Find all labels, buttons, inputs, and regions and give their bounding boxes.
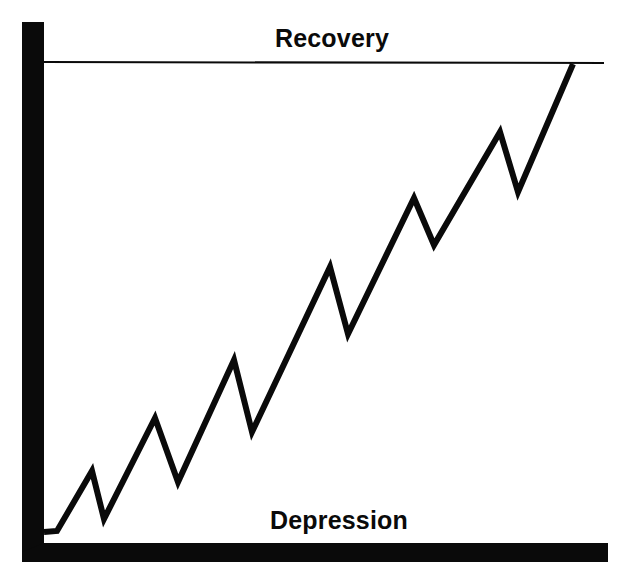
recovery-reference-line [44,62,604,63]
chart-canvas [0,0,626,576]
recovery-label: Recovery [0,26,626,51]
depression-label: Depression [0,508,626,533]
chart-figure: Recovery Depression [0,0,626,576]
y-axis-bar [22,22,44,562]
x-axis-bar [22,543,608,562]
